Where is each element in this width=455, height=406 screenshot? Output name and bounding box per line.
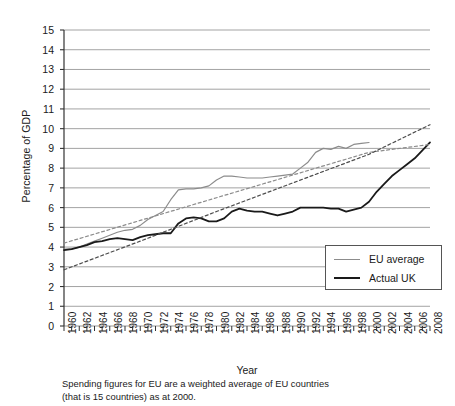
plot-area: [0, 0, 455, 406]
legend-label-actual-uk: Actual UK: [369, 272, 416, 284]
chart-container: Percentage of GDP Year 01234567891011121…: [0, 0, 455, 406]
caption-line-1: Spending figures for EU are a weighted a…: [62, 378, 442, 391]
legend-label-eu-average: EU average: [369, 253, 424, 265]
caption-line-2: (that is 15 countries) as at 2000.: [62, 391, 442, 404]
series-line: [64, 142, 430, 250]
legend-swatch-eu-average: [334, 259, 360, 260]
chart-caption: Spending figures for EU are a weighted a…: [62, 378, 442, 403]
legend-item-actual-uk: Actual UK: [334, 269, 416, 287]
legend-item-eu-average: EU average: [334, 250, 424, 268]
legend-swatch-actual-uk: [334, 277, 360, 279]
chart-legend: EU average Actual UK: [325, 245, 442, 290]
series-line: [64, 142, 369, 249]
